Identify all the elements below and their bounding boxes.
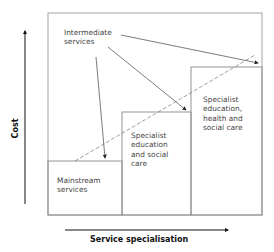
specialist-edu-social-label: Specialist education and social care xyxy=(131,131,168,169)
intermediate-services-label: Intermediate services xyxy=(64,28,112,47)
specialist-edu-health-social-box xyxy=(191,67,262,215)
x-axis-label: Service specialisation xyxy=(90,235,188,244)
arrow-to-mid-step xyxy=(108,47,186,110)
specialist-edu-health-social-label: Specialist education, health and social … xyxy=(203,95,243,133)
arrow-to-top-step xyxy=(121,35,258,63)
mainstream-services-label: Mainstream services xyxy=(57,176,101,195)
arrow-to-mainstream xyxy=(96,57,105,158)
y-axis-label: Cost xyxy=(11,119,20,139)
